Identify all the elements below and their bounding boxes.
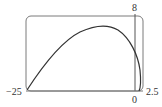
graph-canvas: [0, 0, 162, 107]
viewing-window-frame: [26, 16, 143, 91]
x-zero-label: 0: [132, 95, 137, 105]
graph-window: 8 −25 0 2.5: [0, 0, 162, 107]
x-max-label: 2.5: [146, 87, 159, 97]
x-min-label: −25: [6, 87, 22, 97]
y-max-label: 8: [132, 3, 137, 13]
function-curve: [27, 26, 141, 91]
